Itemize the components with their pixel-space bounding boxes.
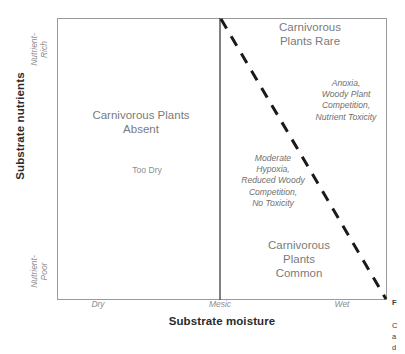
y-axis-title: Substrate nutrients	[14, 46, 26, 206]
zone-label-carnivorous-plants-absent: Carnivorous Plants Absent	[62, 108, 220, 136]
note-too-dry: Too Dry	[112, 165, 182, 175]
note-anoxia-woody-competition-toxicity: Anoxia, Woody Plant Competition, Nutrien…	[300, 78, 392, 123]
x-axis-title: Substrate moisture	[57, 315, 387, 327]
y-tick-nutrient-poor: Nutrient- Poor	[30, 240, 49, 304]
zone-label-carnivorous-plants-common: Carnivorous Plants Common	[228, 238, 370, 280]
y-tick-nutrient-rich: Nutrient- Rich	[30, 18, 49, 82]
caption-figure-number: F	[392, 297, 405, 308]
zone-label-carnivorous-plants-rare: Carnivorous Plants Rare	[240, 20, 380, 48]
caption-clipped: F C a d	[392, 286, 405, 354]
x-tick-dry: Dry	[68, 300, 128, 310]
x-tick-mesic: Mesic	[190, 300, 250, 310]
note-moderate-hypoxia-reduced-competition: Moderate Hypoxia, Reduced Woody Competit…	[228, 153, 318, 209]
x-tick-wet: Wet	[312, 300, 372, 310]
caption-body-clipped: C a d	[392, 320, 405, 354]
